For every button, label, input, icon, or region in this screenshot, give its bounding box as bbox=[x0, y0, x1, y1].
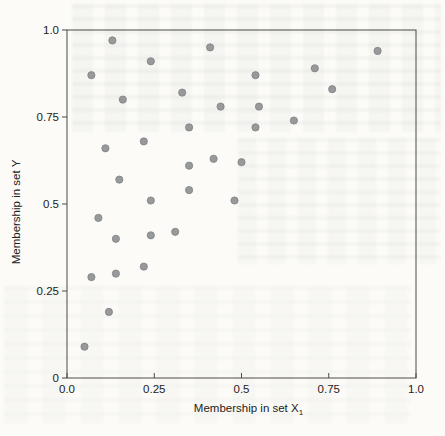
plot-frame bbox=[67, 30, 416, 378]
data-point bbox=[207, 44, 214, 51]
y-axis-tick-label: 0.75 bbox=[37, 111, 59, 123]
data-point bbox=[217, 103, 224, 110]
x-axis-title: Membership in set X1 bbox=[194, 402, 304, 417]
data-point bbox=[186, 162, 193, 169]
x-axis-tick-label: 0.0 bbox=[59, 383, 75, 395]
y-axis-title: Membership in set Y bbox=[10, 159, 22, 264]
data-point bbox=[252, 124, 259, 131]
data-point bbox=[147, 232, 154, 239]
data-point bbox=[116, 176, 123, 183]
data-point bbox=[140, 138, 147, 145]
data-point bbox=[140, 263, 147, 270]
data-point bbox=[231, 197, 238, 204]
x-axis-tick-label: 1.0 bbox=[408, 383, 424, 395]
scanned-page: 00.250.50.751.00.00.250.50.751.0Membersh… bbox=[0, 0, 445, 436]
data-point bbox=[186, 187, 193, 194]
data-point bbox=[147, 197, 154, 204]
x-axis-tick-label: 0.75 bbox=[318, 383, 340, 395]
x-axis-tick-label: 0.25 bbox=[143, 383, 165, 395]
data-point bbox=[119, 96, 126, 103]
data-point bbox=[147, 58, 154, 65]
y-axis-tick-label: 0.25 bbox=[37, 285, 59, 297]
data-point bbox=[112, 235, 119, 242]
data-point bbox=[112, 270, 119, 277]
x-axis-title-subscript: 1 bbox=[299, 408, 304, 417]
data-point bbox=[252, 72, 259, 79]
data-point bbox=[290, 117, 297, 124]
data-point bbox=[109, 37, 116, 44]
data-point bbox=[95, 214, 102, 221]
data-point bbox=[88, 72, 95, 79]
data-point bbox=[255, 103, 262, 110]
data-point bbox=[238, 159, 245, 166]
data-point bbox=[172, 228, 179, 235]
data-point bbox=[179, 89, 186, 96]
scatter-chart: 00.250.50.751.00.00.250.50.751.0Membersh… bbox=[0, 0, 445, 436]
data-point bbox=[329, 86, 336, 93]
data-point bbox=[186, 124, 193, 131]
y-axis-tick-label: 0.5 bbox=[43, 198, 59, 210]
data-point bbox=[374, 47, 381, 54]
data-point bbox=[102, 145, 109, 152]
x-axis-tick-label: 0.5 bbox=[234, 383, 250, 395]
y-axis-tick-label: 1.0 bbox=[43, 24, 59, 36]
data-point bbox=[311, 65, 318, 72]
data-point bbox=[81, 343, 88, 350]
data-point bbox=[210, 155, 217, 162]
data-point bbox=[105, 308, 112, 315]
data-point bbox=[88, 274, 95, 281]
